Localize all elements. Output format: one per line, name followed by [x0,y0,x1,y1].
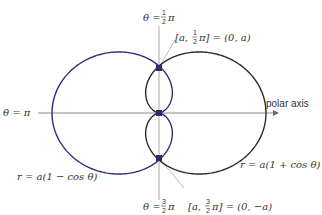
theta-half-pi-den: 2 [162,18,166,25]
point-top-prefix: [a, [175,32,188,43]
point-bottom-num: 3 [206,198,210,205]
theta-three-half-pi-label: θ = [143,201,161,212]
theta-half-pi-label: θ = [143,12,161,23]
point-bottom-suffix: π] = (0, −a) [211,201,272,212]
theta-three-half-pi-suffix: π [167,201,175,212]
polar-axis-label: polar axis [266,98,309,109]
point-bottom-den: 2 [206,207,210,214]
top-intersection-point [156,65,162,71]
theta-half-pi-num: 1 [162,9,166,16]
theta-three-half-pi-num: 3 [162,198,166,205]
right-curve-label: r = a(1 + cos θ) [240,159,320,170]
theta-half-pi-suffix: π [167,12,175,23]
point-top-suffix: π] = (0, a) [198,32,251,43]
point-top-den: 2 [193,38,197,45]
theta-pi-label: θ = π [3,107,31,118]
cardioid-diagram: θ = 1 2 π [a, 1 2 π] = (0, a) θ = π pola… [0,0,322,215]
left-curve-label: r = a(1 − cos θ) [17,171,97,182]
pole-point [156,110,162,116]
point-top-num: 1 [193,29,197,36]
bottom-intersection-point [156,155,162,161]
point-bottom-prefix: [a, [188,201,201,212]
theta-three-half-pi-den: 2 [162,207,166,214]
